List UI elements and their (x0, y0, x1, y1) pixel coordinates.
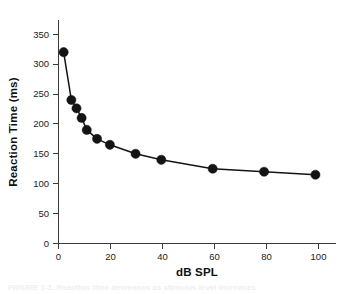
data-point (59, 48, 68, 57)
data-point (311, 170, 320, 179)
figure-caption-fragment: FIGURE 1-1. Reaction time decreases as s… (8, 283, 353, 293)
figure-container: 0 50 100 150 200 250 300 350 0 20 40 (0, 0, 361, 294)
y-axis-ticks: 0 50 100 150 200 250 300 350 (33, 29, 58, 249)
plot-area-background (58, 20, 333, 243)
y-tick-label-100: 100 (33, 178, 49, 189)
data-point (77, 113, 86, 122)
x-tick-label-60: 60 (209, 251, 220, 262)
y-tick-label-300: 300 (33, 58, 49, 69)
data-point (92, 134, 101, 143)
data-point (208, 164, 217, 173)
y-axis-title: Reaction Time (ms) (7, 77, 19, 186)
data-point (67, 95, 76, 104)
data-point (259, 167, 268, 176)
y-tick-label-0: 0 (44, 238, 49, 249)
y-tick-label-50: 50 (38, 208, 49, 219)
x-axis-ticks: 0 20 40 60 80 100 (56, 244, 327, 262)
x-tick-label-40: 40 (157, 251, 168, 262)
x-tick-label-0: 0 (56, 251, 61, 262)
y-tick-label-250: 250 (33, 88, 49, 99)
x-tick-label-100: 100 (311, 251, 327, 262)
y-tick-label-200: 200 (33, 118, 49, 129)
data-point (157, 155, 166, 164)
reaction-time-line-chart: 0 50 100 150 200 250 300 350 0 20 40 (0, 0, 361, 294)
data-point (131, 149, 140, 158)
y-tick-label-150: 150 (33, 148, 49, 159)
y-tick-label-350: 350 (33, 29, 49, 40)
x-tick-label-20: 20 (105, 251, 116, 262)
data-point (105, 140, 114, 149)
x-tick-label-80: 80 (261, 251, 272, 262)
data-point (72, 104, 81, 113)
data-point (82, 125, 91, 134)
x-axis-title: dB SPL (176, 266, 218, 278)
